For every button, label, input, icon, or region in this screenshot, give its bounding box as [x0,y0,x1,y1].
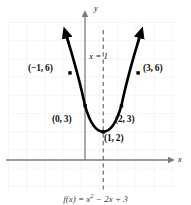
point-marker-3-6 [136,71,139,74]
point-marker-0-3 [83,104,86,107]
point-marker-neg1-6 [68,71,71,74]
figure-caption: f(x) = x2 − 2x + 3 [0,193,191,204]
graph-canvas [0,0,191,205]
point-label-vertex: (1, 2) [104,134,123,144]
x-axis-label: x [178,155,182,164]
axis-of-symmetry-label: x = 1 [89,52,108,61]
caption-function-part: f(x) = x [63,194,90,204]
point-label-2-3: (2, 3) [115,115,134,125]
point-marker-2-3 [120,104,123,107]
point-label-0-3: (0, 3) [52,115,71,125]
point-label-neg1-6: (−1, 6) [28,64,53,74]
grid-area [8,22,176,192]
point-label-3-6: (3, 6) [143,64,162,74]
caption-remainder: − 2x + 3 [94,194,128,204]
y-axis-label: y [94,4,98,13]
